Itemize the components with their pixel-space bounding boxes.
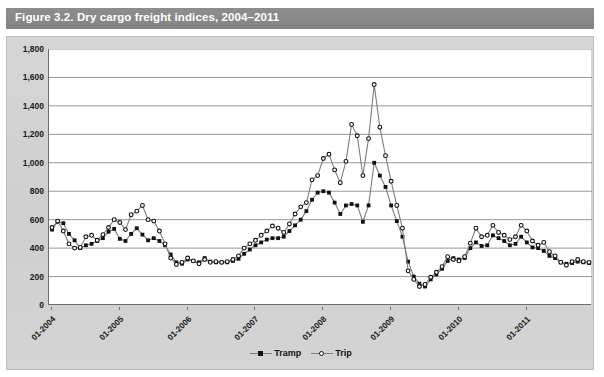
data-point <box>299 205 303 209</box>
data-point <box>321 189 325 193</box>
data-point <box>378 174 382 178</box>
data-point <box>548 250 552 254</box>
data-point <box>514 242 518 246</box>
series-line <box>52 163 589 287</box>
data-point <box>293 223 297 227</box>
data-point <box>576 258 580 262</box>
data-point <box>559 260 563 264</box>
data-point <box>84 243 88 247</box>
data-point <box>169 256 173 260</box>
data-point <box>265 229 269 233</box>
data-point <box>401 226 405 230</box>
legend-label: Tramp <box>274 348 301 358</box>
data-point <box>158 239 162 243</box>
data-point <box>474 226 478 230</box>
data-point <box>491 223 495 227</box>
data-point <box>564 263 568 267</box>
data-point <box>474 241 478 245</box>
data-point <box>440 265 444 269</box>
data-point <box>412 278 416 282</box>
x-axis-tick-mark <box>187 307 188 310</box>
data-point <box>587 260 591 264</box>
data-point <box>90 233 94 237</box>
data-point <box>361 174 365 178</box>
data-point <box>548 254 552 258</box>
x-axis-tick-mark <box>390 307 391 310</box>
data-point <box>299 218 303 222</box>
data-point <box>61 221 65 225</box>
data-point <box>191 259 195 263</box>
x-axis: 01-200401-200501-200601-200701-200801-20… <box>48 307 593 347</box>
data-point <box>259 241 263 245</box>
data-point <box>67 242 71 246</box>
x-axis-tick-label: 01-2011 <box>505 315 532 342</box>
x-axis-tick-label: 01-2004 <box>30 315 58 343</box>
y-axis-tick-mark <box>41 49 44 50</box>
data-point <box>485 243 489 247</box>
data-point <box>231 258 235 262</box>
data-point <box>282 231 286 235</box>
data-point <box>242 246 246 250</box>
chart-legend: TrampTrip <box>7 343 595 363</box>
legend-item-tramp[interactable]: Tramp <box>250 348 301 358</box>
data-point <box>107 230 111 234</box>
data-point <box>361 220 365 224</box>
data-point <box>276 236 280 240</box>
x-axis-tick-label: 01-2008 <box>301 315 329 343</box>
y-axis-tick-label: 400 <box>10 243 44 253</box>
chart-panel: 02004006008001,0001,2001,4001,6001,800 0… <box>6 36 594 370</box>
data-point <box>327 152 331 156</box>
data-point <box>389 204 393 208</box>
data-point <box>174 263 178 267</box>
data-point <box>514 235 518 239</box>
figure-container: Figure 3.2. Dry cargo freight indices, 2… <box>0 0 604 377</box>
data-point <box>333 168 337 172</box>
y-axis-tick-mark <box>41 248 44 249</box>
data-point <box>553 254 557 258</box>
data-point <box>129 213 133 217</box>
data-point <box>418 285 422 289</box>
data-point <box>395 219 399 223</box>
data-point <box>485 233 489 237</box>
data-point <box>395 204 399 208</box>
legend-item-trip[interactable]: Trip <box>311 348 352 358</box>
data-point <box>367 137 371 141</box>
y-axis-tick-label: 1,600 <box>10 72 44 82</box>
open-circle-icon <box>311 349 333 358</box>
data-point <box>372 83 376 87</box>
data-point <box>107 226 111 230</box>
data-point <box>118 221 122 225</box>
series-line <box>52 85 589 287</box>
data-point <box>146 238 150 242</box>
data-point <box>259 233 263 237</box>
y-axis-tick-mark <box>41 77 44 78</box>
data-point <box>457 259 461 263</box>
data-point <box>355 134 359 138</box>
data-point <box>508 238 512 242</box>
data-point <box>429 275 433 279</box>
data-point <box>242 252 246 256</box>
legend-marker <box>258 351 263 356</box>
x-axis-tick-mark <box>51 307 52 310</box>
data-point <box>208 260 212 264</box>
data-point <box>344 159 348 163</box>
data-point <box>316 174 320 178</box>
y-axis-tick-label: 1,200 <box>10 129 44 139</box>
data-point <box>350 202 354 206</box>
data-point <box>95 238 99 242</box>
x-axis-tick-label: 01-2005 <box>98 315 126 343</box>
data-point <box>480 244 484 248</box>
data-point <box>265 238 269 242</box>
data-point <box>502 233 506 237</box>
y-axis-tick-mark <box>41 191 44 192</box>
y-axis-tick-mark <box>41 276 44 277</box>
x-axis-tick-label: 01-2007 <box>233 315 261 343</box>
data-point <box>214 260 218 264</box>
data-point <box>282 235 286 239</box>
data-point <box>129 232 133 236</box>
data-point <box>355 204 359 208</box>
y-axis-tick-label: 1,000 <box>10 158 44 168</box>
x-axis-tick-mark <box>119 307 120 310</box>
data-point <box>321 157 325 161</box>
data-point <box>350 122 354 126</box>
